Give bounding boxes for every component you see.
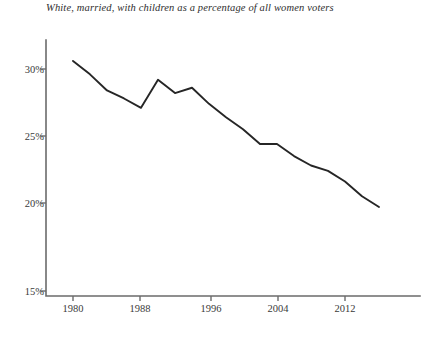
axis-spine [46,40,420,296]
data-series-layer [73,61,379,207]
x-tick-label: 1988 [110,303,170,314]
y-tick-label: 30% [0,64,44,75]
x-tick-label: 1996 [181,303,241,314]
x-tick-label: 1980 [43,303,103,314]
clipped-caption [0,330,425,338]
y-tick-label: 25% [0,131,44,142]
series-line-white-married-with-children [73,61,379,207]
line-chart-plot [0,0,425,338]
chart-figure: White, married, with children as a perce… [0,0,425,338]
x-tick-label: 2012 [315,303,375,314]
chart-axes [40,40,420,301]
y-tick-label: 20% [0,198,44,209]
y-tick-label: 15% [0,286,44,297]
x-tick-label: 2004 [248,303,308,314]
y-tick-marks [40,69,46,291]
